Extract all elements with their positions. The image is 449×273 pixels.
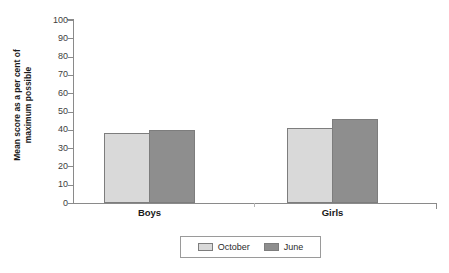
y-axis-tick-label: 40: [34, 125, 68, 134]
x-axis-mid-tick: [254, 203, 255, 207]
y-axis-title: Mean score as a per cent of maximum poss…: [0, 0, 46, 210]
y-axis-tick-label: 70: [34, 70, 68, 79]
legend: October June: [180, 236, 321, 258]
y-axis-tick-label: 90: [34, 34, 68, 43]
y-axis-tick: [68, 203, 73, 204]
legend-entry-june[interactable]: June: [264, 242, 304, 252]
bar-boys-october: [104, 133, 150, 203]
y-axis-title-line-2: maximum possible: [23, 49, 34, 161]
y-axis-tick: [68, 20, 73, 21]
y-axis-tick: [68, 130, 73, 131]
y-axis-tick: [68, 185, 73, 186]
legend-label-october: October: [218, 242, 250, 252]
x-axis-end-cap: [436, 203, 437, 209]
legend-swatch-june-icon: [264, 243, 279, 251]
legend-swatch-october-icon: [198, 243, 213, 251]
y-axis-tick-label: 0: [34, 199, 68, 208]
bar-boys-june: [149, 130, 195, 203]
x-axis-label-girls: Girls: [267, 207, 398, 219]
legend-label-june: June: [284, 242, 304, 252]
bar-chart: Mean score as a per cent of maximum poss…: [0, 0, 449, 273]
y-axis-tick: [68, 166, 73, 167]
bar-girls-october: [287, 128, 333, 203]
y-axis-tick: [68, 75, 73, 76]
legend-entry-october[interactable]: October: [198, 242, 250, 252]
y-axis-tick: [68, 112, 73, 113]
y-axis-tick: [68, 148, 73, 149]
bar-girls-june: [332, 119, 378, 203]
y-axis-tick-label: 100: [34, 16, 68, 25]
y-axis-tick-label: 60: [34, 89, 68, 98]
y-axis-tick-label: 30: [34, 144, 68, 153]
y-axis-line: [73, 19, 74, 204]
y-axis-tick: [68, 38, 73, 39]
y-axis-tick-label: 50: [34, 107, 68, 116]
y-axis-tick: [68, 93, 73, 94]
y-axis-tick-label: 20: [34, 162, 68, 171]
y-axis-tick: [68, 57, 73, 58]
y-axis-tick-label: 10: [34, 180, 68, 189]
y-axis-title-line-1: Mean score as a per cent of: [12, 49, 23, 161]
x-axis-line: [73, 203, 437, 204]
y-axis-tick-label: 80: [34, 52, 68, 61]
x-axis-label-boys: Boys: [84, 207, 215, 219]
